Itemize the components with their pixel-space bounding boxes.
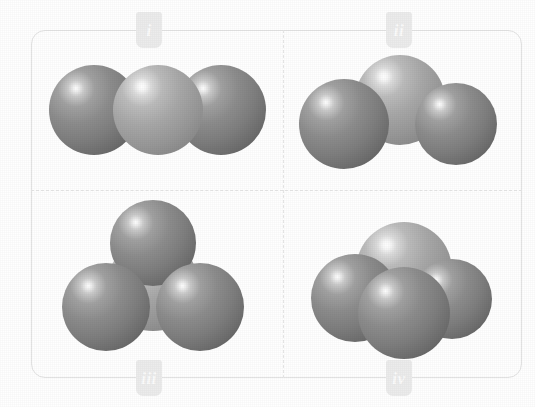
panel-ii	[283, 30, 522, 190]
panel-label-i: i	[136, 12, 162, 48]
atom-iii-terminal-right	[156, 263, 244, 351]
atom-ii-terminal-left	[299, 79, 389, 169]
atom-iii-terminal-left	[62, 263, 150, 351]
panel-iv	[283, 190, 522, 378]
panel-label-ii: ii	[386, 12, 412, 48]
panel-label-iii: iii	[136, 360, 162, 396]
atom-ii-terminal-right	[415, 83, 497, 165]
molecular-models-figure: i ii iii iv	[0, 0, 535, 407]
atom-i-central	[113, 65, 203, 155]
atom-iv-terminal-front	[358, 267, 450, 359]
panel-label-iv: iv	[386, 360, 412, 396]
panel-i	[31, 30, 283, 190]
panel-iii	[31, 190, 283, 378]
